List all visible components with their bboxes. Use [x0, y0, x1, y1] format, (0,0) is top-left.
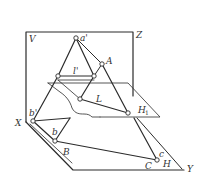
label-l-prime: l' [73, 66, 78, 76]
label-L: L [95, 94, 102, 104]
point-b [53, 139, 57, 143]
label-V: V [29, 34, 37, 44]
point-l-right [92, 74, 96, 78]
label-H: H [162, 159, 171, 169]
label-Z: Z [135, 30, 143, 40]
point-L [78, 97, 82, 101]
label-A: A [105, 56, 113, 66]
points [31, 36, 159, 162]
label-b: b [52, 127, 58, 137]
projection-diagram: V Z a' l' A L H 1 X b' b B C c H Y [0, 0, 210, 187]
point-a-prime [74, 36, 78, 40]
label-Y: Y [187, 164, 194, 174]
label-B: B [62, 147, 70, 157]
label-c: c [159, 149, 164, 159]
h-plane [26, 122, 184, 170]
point-A [100, 62, 104, 66]
label-C: C [145, 161, 152, 171]
point-b-prime [31, 119, 35, 123]
label-X: X [14, 118, 22, 128]
point-H1 [126, 111, 130, 115]
label-b-prime: b' [29, 108, 37, 118]
label-H1-subscript: 1 [145, 109, 149, 116]
space-line-L [58, 64, 128, 113]
point-l-left [56, 74, 60, 78]
label-a-prime: a' [80, 33, 88, 43]
